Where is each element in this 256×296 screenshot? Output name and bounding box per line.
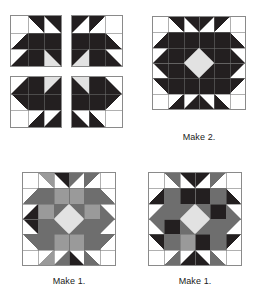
patch	[89, 33, 106, 50]
patch	[210, 219, 225, 234]
patch	[230, 32, 245, 47]
patch	[72, 33, 89, 50]
patch	[72, 110, 89, 127]
patch	[28, 49, 45, 66]
patch	[226, 173, 241, 188]
patch	[210, 234, 225, 249]
patch	[164, 188, 179, 203]
patch	[89, 16, 106, 33]
patch	[38, 204, 53, 219]
patch	[100, 173, 115, 188]
patch	[168, 94, 183, 109]
patch	[226, 204, 241, 219]
patch-grid	[11, 77, 61, 127]
quilt-block-make-1-b	[148, 172, 242, 266]
patch	[84, 173, 99, 188]
paw-unit-bottom-left	[10, 76, 62, 128]
diagram-canvas: Make 2. Make 1. Make 1.	[0, 0, 256, 296]
patch	[210, 250, 225, 265]
patch	[168, 48, 183, 63]
patch	[105, 77, 122, 94]
patch	[184, 17, 199, 32]
patch	[100, 234, 115, 249]
patch	[23, 234, 38, 249]
patch	[214, 63, 229, 78]
patch	[149, 204, 164, 219]
patch	[153, 63, 168, 78]
patch	[28, 16, 45, 33]
patch	[214, 78, 229, 93]
patch	[23, 173, 38, 188]
patch	[164, 219, 179, 234]
patch	[195, 188, 210, 203]
patch	[38, 219, 53, 234]
patch	[89, 94, 106, 111]
paw-unit-bottom-right	[71, 76, 123, 128]
patch	[168, 32, 183, 47]
patch	[72, 94, 89, 111]
patch	[149, 250, 164, 265]
patch	[168, 78, 183, 93]
patch	[28, 33, 45, 50]
patch	[11, 33, 28, 50]
patch	[72, 49, 89, 66]
patch	[100, 250, 115, 265]
patch	[153, 48, 168, 63]
patch	[149, 234, 164, 249]
patch	[164, 234, 179, 249]
patch	[149, 188, 164, 203]
patch	[153, 17, 168, 32]
patch	[84, 219, 99, 234]
patch	[168, 63, 183, 78]
patch	[199, 94, 214, 109]
patch	[44, 49, 61, 66]
patch	[180, 173, 195, 188]
patch	[28, 110, 45, 127]
patch	[210, 173, 225, 188]
patch	[226, 188, 241, 203]
patch	[72, 77, 89, 94]
quilt-block-make-1-a	[22, 172, 116, 266]
patch	[28, 94, 45, 111]
patch	[210, 188, 225, 203]
patch	[69, 188, 84, 203]
patch	[69, 250, 84, 265]
paw-unit-top-right	[71, 15, 123, 67]
patch	[44, 94, 61, 111]
patch	[199, 17, 214, 32]
caption-make-2: Make 2.	[152, 132, 246, 142]
patch	[214, 94, 229, 109]
patch	[230, 78, 245, 93]
patch	[89, 110, 106, 127]
patch	[44, 16, 61, 33]
patch	[149, 219, 164, 234]
patch	[54, 234, 69, 249]
patch	[69, 234, 84, 249]
patch	[180, 188, 195, 203]
patch	[164, 204, 179, 219]
patch	[180, 250, 195, 265]
patch	[38, 173, 53, 188]
patch	[54, 173, 69, 188]
patch	[23, 250, 38, 265]
patch	[214, 17, 229, 32]
patch	[153, 32, 168, 47]
patch	[100, 219, 115, 234]
patch	[180, 234, 195, 249]
patch	[54, 250, 69, 265]
patch	[226, 250, 241, 265]
patch	[105, 94, 122, 111]
patch	[149, 173, 164, 188]
patch	[184, 78, 199, 93]
patch	[84, 250, 99, 265]
patch	[230, 63, 245, 78]
patch	[84, 204, 99, 219]
patch	[195, 173, 210, 188]
patch	[54, 188, 69, 203]
patch	[184, 94, 199, 109]
patch-grid	[11, 16, 61, 66]
patch	[184, 32, 199, 47]
patch	[23, 188, 38, 203]
patch	[199, 32, 214, 47]
patch	[69, 173, 84, 188]
